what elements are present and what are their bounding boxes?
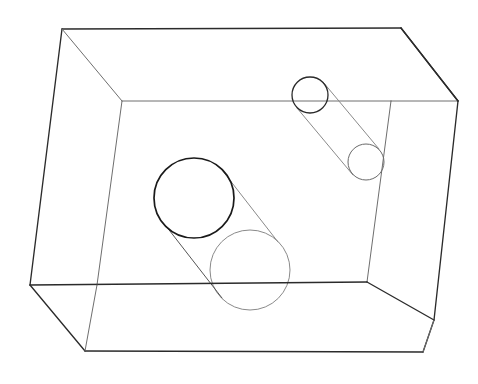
small-cylinder-back-rim (292, 77, 328, 113)
large-cylinder-side-lower (166, 226, 222, 298)
connector-top-right (401, 28, 458, 101)
small-cylinder-front-rim (348, 144, 384, 180)
back-right-vertical-edge (367, 101, 391, 282)
box-back-face (97, 101, 458, 285)
small-cylinder (292, 77, 384, 180)
box-floor-edges (30, 282, 434, 320)
wireframe-scene (0, 0, 478, 384)
connector-top-left (62, 29, 122, 101)
box-corner-connectors (62, 28, 458, 352)
box-front-face (30, 28, 458, 352)
small-cylinder-side-upper (323, 82, 379, 149)
back-bottom-edge (30, 282, 367, 285)
back-left-vertical-edge (97, 101, 122, 285)
right-lower-edge (434, 101, 458, 320)
connector-bottom-right (423, 320, 434, 352)
small-cylinder-side-lower (297, 108, 353, 175)
back-bottom-right-edge (367, 282, 434, 320)
drawing-canvas (0, 0, 478, 384)
connector-bottom-left (85, 285, 97, 351)
left-lower-edge (30, 285, 85, 351)
large-cylinder-front-rim (154, 158, 234, 238)
left-outer-edge (30, 29, 62, 285)
front-top-edge (62, 28, 401, 29)
large-cylinder (154, 158, 290, 310)
front-bottom-edge (85, 351, 423, 352)
